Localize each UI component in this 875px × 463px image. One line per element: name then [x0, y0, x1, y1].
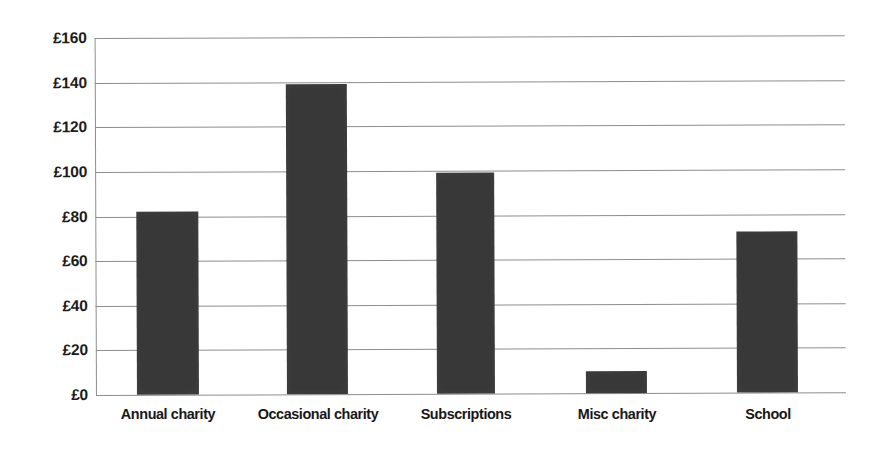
- x-tick-label-school: School: [745, 405, 791, 423]
- y-tick-label-160: £160: [5, 29, 87, 47]
- bar-chart: £0 £20 £40 £60 £80 £100 £120 £140 £160: [0, 0, 875, 463]
- bar-subscriptions[interactable]: [436, 173, 495, 394]
- bar-annual-charity[interactable]: [136, 212, 199, 395]
- bars-layer: [95, 35, 846, 395]
- x-tick-label-occasional-charity: Occasional charity: [258, 405, 379, 423]
- y-tick-label-100: £100: [5, 163, 87, 181]
- bar-misc-charity[interactable]: [586, 371, 647, 394]
- x-tick-label-annual-charity: Annual charity: [121, 405, 215, 423]
- y-tick-label-0: £0: [6, 386, 88, 404]
- y-tick-label-120: £120: [5, 118, 87, 136]
- y-tick-label-140: £140: [5, 74, 87, 92]
- y-axis: £0 £20 £40 £60 £80 £100 £120 £140 £160: [4, 0, 88, 463]
- y-tick-label-80: £80: [5, 208, 87, 226]
- x-axis: Annual charity Occasional charity Subscr…: [96, 405, 856, 439]
- y-tick-label-20: £20: [6, 341, 88, 359]
- bar-occasional-charity[interactable]: [286, 84, 348, 394]
- x-tick-label-misc-charity: Misc charity: [578, 405, 656, 423]
- y-tick-label-60: £60: [5, 252, 87, 270]
- x-tick-label-subscriptions: Subscriptions: [421, 405, 512, 423]
- bar-school[interactable]: [736, 232, 798, 393]
- plot-skew-wrapper: £0 £20 £40 £60 £80 £100 £120 £140 £160: [0, 0, 875, 463]
- y-tick-label-40: £40: [6, 297, 88, 315]
